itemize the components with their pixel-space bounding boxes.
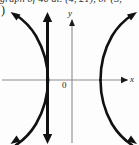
origin-label: 0	[62, 81, 67, 90]
hyperbola-graph	[0, 0, 139, 145]
vertical-line-down-arrowhead-icon	[43, 134, 52, 144]
vertical-line-up-arrowhead-icon	[43, 12, 52, 22]
vertical-double-arrow-line	[43, 12, 52, 144]
left-branch-upper-arrowhead-icon	[11, 12, 21, 21]
y-axis	[69, 19, 75, 143]
left-hyperbola-branch	[11, 12, 49, 145]
y-axis-label: y	[68, 9, 72, 18]
right-branch-upper-arrowhead-icon	[127, 12, 137, 21]
y-axis-arrowhead-icon	[69, 19, 75, 26]
x-axis-arrowhead-icon	[121, 77, 128, 83]
x-axis-label: x	[130, 75, 134, 84]
figure-panel: graph of 40 at. (4, 21), or (3, )	[0, 0, 139, 145]
